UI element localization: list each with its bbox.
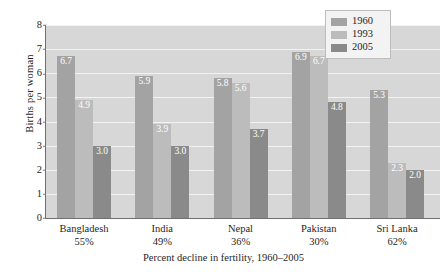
y-axis-ticks: 876543210 [26,25,42,218]
x-axis-category-percent: 36% [196,235,286,249]
bar: 5.6 [232,83,250,218]
legend-swatch [331,31,347,39]
x-axis-category: India49% [117,222,207,249]
bar: 5.3 [370,90,388,218]
bar: 3.0 [171,146,189,218]
bar: 4.8 [328,102,346,218]
bar-value-label: 4.9 [75,101,93,111]
bar-value-label: 3.9 [153,125,171,135]
legend-swatch [331,18,347,26]
x-axis-line [45,218,440,219]
x-axis-category: Nepal36% [196,222,286,249]
y-tick-label: 5 [26,92,42,103]
x-axis-category: Sri Lanka62% [352,222,442,249]
legend-item: 1993 [331,28,385,41]
x-axis-category-name: Bangladesh [39,222,129,235]
x-axis-category: Pakistan30% [274,222,364,249]
y-tick-label: 6 [26,68,42,79]
legend-label: 1960 [352,16,373,27]
x-axis-category-percent: 30% [274,235,364,249]
x-axis-category-name: Nepal [196,222,286,235]
y-tick-label: 1 [26,189,42,200]
legend-item: 1960 [331,15,385,28]
bar-value-label: 3.0 [171,147,189,157]
bar: 6.9 [292,52,310,218]
bar: 2.0 [406,170,424,218]
x-axis-category-name: India [117,222,207,235]
legend-swatch [331,44,347,52]
y-tick-label: 7 [26,44,42,55]
x-axis-category-labels: Bangladesh55%India49%Nepal36%Pakistan30%… [46,222,440,252]
x-axis-title: Percent decline in fertility, 1960–2005 [0,252,447,263]
x-axis-category-percent: 49% [117,235,207,249]
bar-value-label: 4.8 [328,103,346,113]
bar-value-label: 2.3 [388,164,406,174]
bar: 3.0 [93,146,111,218]
chart-legend: 196019932005 [325,10,391,59]
bar-value-label: 5.3 [370,91,388,101]
x-axis-category-percent: 55% [39,235,129,249]
bar-value-label: 6.7 [57,57,75,67]
legend-label: 2005 [352,42,373,53]
bar-value-label: 3.7 [250,130,268,140]
bar: 5.8 [214,78,232,218]
bar-value-label: 5.9 [135,77,153,87]
bar-value-label: 5.6 [232,84,250,94]
bar: 5.9 [135,76,153,218]
bar: 3.9 [153,124,171,218]
bar: 3.7 [250,129,268,218]
gridline [46,73,440,74]
x-axis-category-percent: 62% [352,235,442,249]
legend-label: 1993 [352,29,373,40]
bar: 4.9 [75,100,93,218]
y-tick-label: 2 [26,165,42,176]
x-axis-category: Bangladesh55% [39,222,129,249]
y-tick-label: 3 [26,140,42,151]
bar: 2.3 [388,163,406,218]
y-tick-label: 8 [26,20,42,31]
y-tick-label: 4 [26,116,42,127]
bar-value-label: 2.0 [406,171,424,181]
x-axis-category-name: Pakistan [274,222,364,235]
bar-value-label: 6.9 [292,53,310,63]
bar-value-label: 3.0 [93,147,111,157]
bar: 6.7 [57,56,75,218]
legend-item: 2005 [331,41,385,54]
bar: 6.7 [310,56,328,218]
bar-value-label: 5.8 [214,79,232,89]
x-axis-category-name: Sri Lanka [352,222,442,235]
